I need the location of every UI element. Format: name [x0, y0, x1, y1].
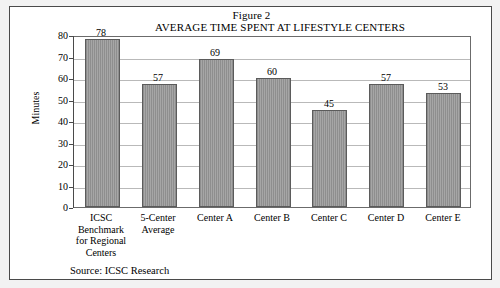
y-axis-tick [69, 101, 73, 102]
bar [256, 78, 291, 207]
y-axis-tick-labels: 80706050403020100 [23, 7, 68, 288]
y-axis-tick-label: 80 [28, 31, 68, 41]
bar-value-label: 78 [76, 27, 126, 38]
chart-title: AVERAGE TIME SPENT AT LIFESTYLE CENTERS [70, 21, 490, 33]
y-axis-tick-label: 0 [28, 203, 68, 213]
bar [369, 84, 404, 207]
x-axis-tick-label: 5-CenterAverage [126, 212, 190, 235]
x-axis-tick-label: Center E [411, 212, 475, 224]
y-axis-tick [69, 144, 73, 145]
x-axis-tick-label: Center A [183, 212, 247, 224]
bar-value-label: 45 [304, 98, 354, 109]
bar-value-label: 69 [190, 47, 240, 58]
y-axis-line [73, 36, 74, 208]
y-axis-tick-label: 30 [28, 139, 68, 149]
bar [312, 110, 347, 207]
x-axis-tick-label: ICSCBenchmarkfor RegionalCenters [69, 212, 133, 258]
x-axis-tick-label: Center B [240, 212, 304, 224]
source-note: Source: ICSC Research [70, 265, 169, 277]
y-axis-tick [69, 79, 73, 80]
y-axis-tick-label: 70 [28, 53, 68, 63]
y-axis-tick [69, 165, 73, 166]
bar-value-label: 57 [133, 72, 183, 83]
plot-area [73, 36, 471, 208]
bar-value-label: 53 [418, 81, 468, 92]
y-axis-tick [69, 58, 73, 59]
x-axis-tick-labels: ICSCBenchmarkfor RegionalCenters5-Center… [73, 212, 471, 262]
bar-value-label: 60 [247, 66, 297, 77]
y-axis-tick-label: 40 [28, 117, 68, 127]
y-axis-tick-label: 50 [28, 96, 68, 106]
x-axis-tick-label: Center D [354, 212, 418, 224]
y-axis-tick [69, 36, 73, 37]
y-axis-tick [69, 187, 73, 188]
figure-page: Figure 2 AVERAGE TIME SPENT AT LIFESTYLE… [0, 0, 500, 288]
figure-number: Figure 2 [10, 9, 493, 21]
y-axis-tick-label: 10 [28, 182, 68, 192]
bar [85, 39, 120, 207]
bar-value-label: 57 [361, 72, 411, 83]
figure-frame: Figure 2 AVERAGE TIME SPENT AT LIFESTYLE… [9, 6, 492, 280]
bar [426, 93, 461, 207]
gridline [74, 59, 470, 60]
bar [142, 84, 177, 207]
y-axis-tick-label: 60 [28, 74, 68, 84]
y-axis-tick [69, 122, 73, 123]
x-axis-tick-label: Center C [297, 212, 361, 224]
bar [199, 59, 234, 207]
y-axis-tick-label: 20 [28, 160, 68, 170]
y-axis-tick [69, 208, 73, 209]
